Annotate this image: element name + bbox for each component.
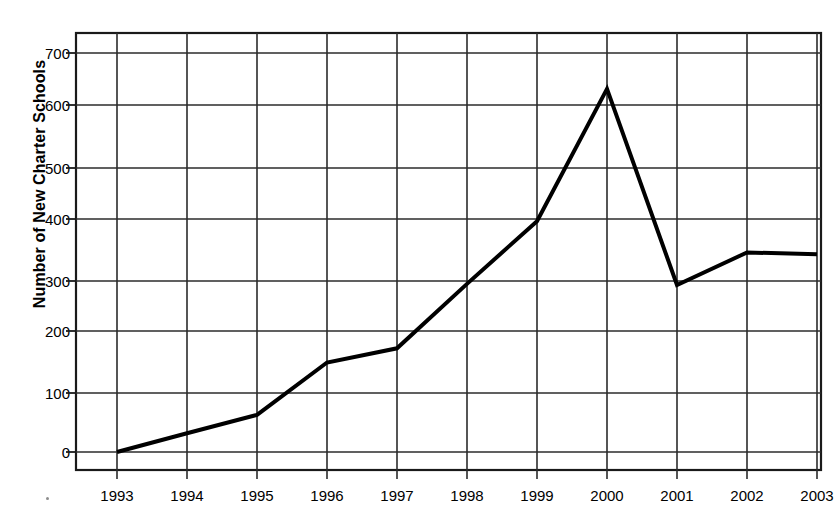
y-axis-ticks [66,53,76,452]
scan-artifact-speck [46,497,49,500]
vertical-gridlines [117,33,817,479]
